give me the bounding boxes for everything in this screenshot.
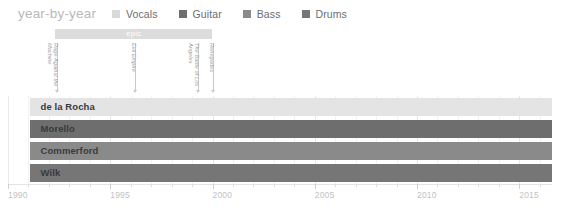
timeline-row-label: Morello bbox=[40, 120, 74, 138]
axis-tick-minor bbox=[274, 184, 275, 187]
axis-tick-minor bbox=[335, 184, 336, 187]
axis-tick-label: 2010 bbox=[417, 190, 437, 200]
axis-tick-minor bbox=[90, 184, 91, 187]
axis-tick-minor bbox=[192, 184, 193, 187]
axis-tick-label: 2005 bbox=[315, 190, 335, 200]
axis-tick-major bbox=[213, 184, 214, 189]
axis-tick-minor bbox=[356, 184, 357, 187]
timeline-row-label: de la Rocha bbox=[40, 98, 94, 116]
legend-item-guitar[interactable]: Guitar bbox=[179, 8, 222, 20]
axis-tick-minor bbox=[499, 184, 500, 187]
legend-item-drums[interactable]: Drums bbox=[302, 8, 347, 20]
legend-item-bass[interactable]: Bass bbox=[243, 8, 281, 20]
legend-item-label: Guitar bbox=[193, 8, 222, 20]
timeline-row-label: Wilk bbox=[40, 164, 60, 182]
axis-tick-minor bbox=[233, 184, 234, 187]
album-annotation-label: Renegades bbox=[208, 43, 214, 89]
plot-area: de la RochaMorelloCommerfordWilk bbox=[0, 96, 564, 184]
axis-tick-major bbox=[417, 184, 418, 189]
axis-tick-major bbox=[8, 184, 9, 189]
gridline bbox=[28, 96, 29, 184]
era-band-label: epic bbox=[55, 29, 212, 39]
axis-tick-label: 1990 bbox=[8, 190, 28, 200]
axis-tick-minor bbox=[172, 184, 173, 187]
annotation-arrow-icon bbox=[55, 90, 59, 93]
axis-tick-minor bbox=[397, 184, 398, 187]
axis-tick-label: 2015 bbox=[519, 190, 539, 200]
axis-tick-label: 1995 bbox=[110, 190, 130, 200]
legend-item-label: Vocals bbox=[126, 8, 158, 20]
legend-item-vocals[interactable]: Vocals bbox=[112, 8, 158, 20]
gridline bbox=[8, 96, 9, 184]
timeline-row-de-la-rocha[interactable]: de la Rocha bbox=[30, 98, 551, 116]
legend-swatch-icon bbox=[112, 10, 120, 18]
axis-tick-minor bbox=[49, 184, 50, 187]
legend-swatch-icon bbox=[302, 10, 310, 18]
axis-tick-minor bbox=[28, 184, 29, 187]
axis-tick-minor bbox=[151, 184, 152, 187]
legend-swatch-icon bbox=[179, 10, 187, 18]
timeline-row-commerford[interactable]: Commerford bbox=[30, 142, 551, 160]
album-annotation-label: The Battle of Los Angeles bbox=[188, 43, 201, 89]
axis-tick-major bbox=[519, 184, 520, 189]
axis-tick-minor bbox=[478, 184, 479, 187]
page-title: year-by-year bbox=[18, 6, 96, 21]
timeline-row-wilk[interactable]: Wilk bbox=[30, 164, 551, 182]
timeline-row-morello[interactable]: Morello bbox=[30, 120, 551, 138]
chart-legend: VocalsGuitarBassDrums bbox=[112, 8, 368, 20]
axis-tick-minor bbox=[540, 184, 541, 187]
axis-tick-minor bbox=[69, 184, 70, 187]
annotation-arrow-icon bbox=[211, 90, 215, 93]
axis-tick-major bbox=[315, 184, 316, 189]
chart-header: year-by-year VocalsGuitarBassDrums bbox=[0, 0, 564, 28]
album-annotation-label: Rage Against the Machine bbox=[46, 43, 59, 89]
axis-tick-minor bbox=[437, 184, 438, 187]
axis-tick-label: 2000 bbox=[213, 190, 233, 200]
legend-item-label: Drums bbox=[316, 8, 347, 20]
annotation-arrow-icon bbox=[133, 90, 137, 93]
axis-tick-minor bbox=[131, 184, 132, 187]
timeline-row-label: Commerford bbox=[40, 142, 98, 160]
x-axis: 199019952000200520102015 bbox=[0, 184, 564, 211]
axis-tick-minor bbox=[253, 184, 254, 187]
legend-item-label: Bass bbox=[257, 8, 281, 20]
axis-tick-minor bbox=[458, 184, 459, 187]
axis-tick-major bbox=[110, 184, 111, 189]
axis-tick-minor bbox=[294, 184, 295, 187]
album-annotation-label: Evil Empire bbox=[130, 43, 136, 89]
legend-swatch-icon bbox=[243, 10, 251, 18]
axis-tick-minor bbox=[376, 184, 377, 187]
year-by-year-chart: year-by-year VocalsGuitarBassDrums epic … bbox=[0, 0, 564, 211]
annotation-arrow-icon bbox=[196, 90, 200, 93]
